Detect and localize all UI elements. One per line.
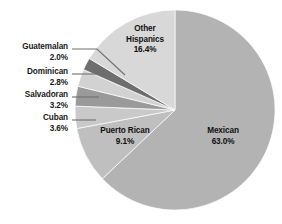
slice-label-guatemalan-value: 2.0% — [22, 53, 68, 64]
slice-label-cuban: Cuban 3.6% — [43, 113, 68, 134]
slice-label-dominican-value: 2.8% — [27, 78, 68, 89]
slice-label-other-hispanics: Other Hispanics 16.4% — [108, 24, 182, 56]
slice-label-dominican-name: Dominican — [27, 67, 68, 78]
slice-label-cuban-value: 3.6% — [43, 124, 68, 135]
slice-label-mexican: Mexican 63.0% — [192, 126, 254, 147]
slice-label-salvadoran-value: 3.2% — [25, 101, 68, 112]
slice-label-puerto-rican-name: Puerto Rican — [88, 126, 162, 137]
slice-label-cuban-name: Cuban — [43, 113, 68, 124]
slice-label-salvadoran-name: Salvadoran — [25, 90, 68, 101]
slice-label-other-hispanics-name-line1: Other — [108, 24, 182, 35]
slice-label-mexican-value: 63.0% — [192, 137, 254, 148]
slice-label-other-hispanics-name-line2: Hispanics — [108, 35, 182, 46]
slice-label-puerto-rican: Puerto Rican 9.1% — [88, 126, 162, 147]
slice-label-salvadoran: Salvadoran 3.2% — [25, 90, 68, 111]
slice-label-dominican: Dominican 2.8% — [27, 67, 68, 88]
slice-label-puerto-rican-value: 9.1% — [88, 137, 162, 148]
slice-label-other-hispanics-value: 16.4% — [108, 45, 182, 56]
slice-label-mexican-name: Mexican — [192, 126, 254, 137]
slice-label-guatemalan-name: Guatemalan — [22, 42, 68, 53]
pie-chart: Guatemalan 2.0% Dominican 2.8% Salvadora… — [0, 0, 282, 224]
slice-label-guatemalan: Guatemalan 2.0% — [22, 42, 68, 63]
